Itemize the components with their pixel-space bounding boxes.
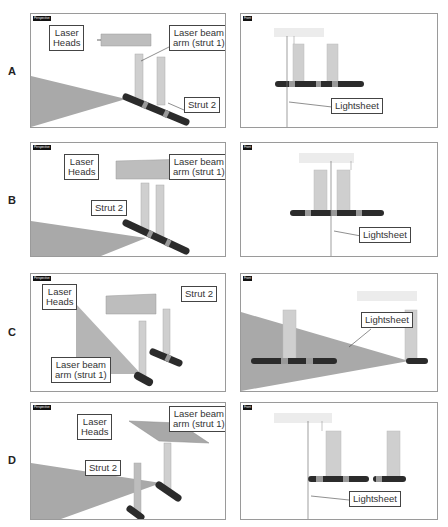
callout-laser-beam-arm: Laser beamarm (strut 1) [169, 406, 226, 432]
callout-laser-beam-arm: Laser beamarm (strut 1) [169, 25, 226, 51]
row-label-d: D [8, 454, 16, 466]
callout-lightsheet: Lightsheet [331, 98, 383, 114]
callout-strut-2: Strut 2 [85, 460, 121, 476]
row-label-b: B [8, 194, 16, 206]
callout-lightsheet: Lightsheet [349, 491, 401, 507]
front-viewport-a: Front Lightsheet [240, 13, 438, 128]
callout-laser-beam-arm: Laser beamarm (strut 1) [169, 154, 226, 180]
front-viewport-b: Front Lightsheet [240, 142, 438, 257]
front-viewport-c: Front Lightsheet [240, 273, 438, 392]
perspective-viewport-a: Perspective LaserHeads Laser beamarm (st… [30, 13, 226, 128]
callout-lightsheet: Lightsheet [361, 312, 413, 328]
callout-laser-heads: LaserHeads [49, 25, 84, 51]
callout-strut-2: Strut 2 [91, 200, 127, 216]
scene-d-front [241, 403, 437, 519]
perspective-viewport-d: Perspective LaserHeads Laser beamarm (st… [30, 402, 226, 520]
row-label-a: A [8, 65, 16, 77]
callout-laser-heads: LaserHeads [77, 414, 112, 440]
row-label-c: C [8, 326, 16, 338]
callout-strut-2: Strut 2 [184, 97, 220, 113]
front-viewport-d: Front Lightsheet [240, 402, 438, 520]
callout-laser-heads: LaserHeads [64, 154, 99, 180]
callout-laser-beam-arm: Laser beamarm (strut 1) [51, 357, 111, 383]
callout-laser-heads: LaserHeads [42, 284, 77, 310]
perspective-viewport-b: Perspective LaserHeads Laser beamarm (st… [30, 142, 226, 257]
callout-strut-2: Strut 2 [181, 286, 217, 302]
perspective-viewport-c: Perspective LaserHeads Strut 2 Laser bea… [30, 273, 226, 392]
callout-lightsheet: Lightsheet [359, 227, 411, 243]
scene-c-front [241, 274, 437, 391]
